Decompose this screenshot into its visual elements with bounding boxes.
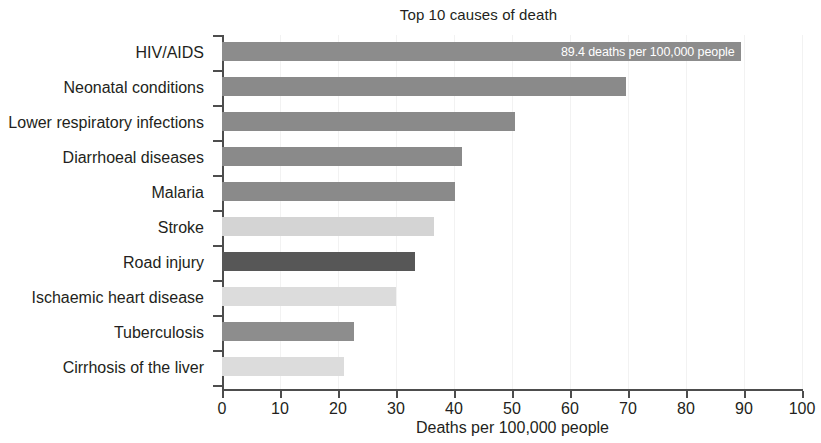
y-axis-label: Lower respiratory infections [0, 105, 213, 140]
gridline [802, 35, 803, 390]
x-axis-tick-label: 70 [619, 400, 637, 418]
y-axis-label: Cirrhosis of the liver [0, 350, 213, 385]
x-axis-tick-label: 50 [503, 400, 521, 418]
x-axis-tick [744, 391, 746, 398]
bar [222, 217, 434, 236]
bar-row [222, 140, 802, 175]
bar-row [222, 105, 802, 140]
y-axis-label: Road injury [0, 245, 213, 280]
y-axis-tick [213, 210, 222, 212]
x-axis-tick [280, 391, 282, 398]
bar [222, 112, 515, 131]
x-axis-title: Deaths per 100,000 people [222, 419, 803, 437]
x-axis-tick [570, 391, 572, 398]
bar-row: 89.4 deaths per 100,000 people [222, 35, 802, 70]
x-axis-tick-label: 80 [677, 400, 695, 418]
y-axis-tick [213, 385, 222, 387]
bar-row [222, 350, 802, 385]
y-axis-tick [213, 175, 222, 177]
bar-row [222, 315, 802, 350]
x-axis-tick-label: 20 [329, 400, 347, 418]
bar [222, 147, 462, 166]
bar-row [222, 70, 802, 105]
x-axis-tick [686, 391, 688, 398]
y-axis-tick [213, 140, 222, 142]
bar-value-label: 89.4 deaths per 100,000 people [561, 45, 735, 59]
x-axis-tick-label: 40 [445, 400, 463, 418]
y-axis-label: Neonatal conditions [0, 70, 213, 105]
bar [222, 322, 354, 341]
x-axis-tick [338, 391, 340, 398]
y-axis-tick [213, 245, 222, 247]
y-axis-label: Stroke [0, 210, 213, 245]
x-axis-tick-label: 100 [789, 400, 816, 418]
bar [222, 182, 455, 201]
x-axis-tick-label: 0 [218, 400, 227, 418]
y-axis-tick [213, 350, 222, 352]
x-axis-tick [454, 391, 456, 398]
y-axis-label: Ischaemic heart disease [0, 280, 213, 315]
y-axis-tick [213, 280, 222, 282]
y-axis-label: Diarrhoeal diseases [0, 140, 213, 175]
bar [222, 357, 344, 376]
x-axis-tick-label: 30 [387, 400, 405, 418]
bar [222, 287, 396, 306]
y-axis-category-labels: HIV/AIDSNeonatal conditionsLower respira… [0, 35, 213, 390]
x-axis-tick [222, 391, 224, 398]
y-axis-tick [213, 35, 222, 37]
plot-area: 89.4 deaths per 100,000 people [222, 35, 802, 390]
chart-title-text: Top 10 causes of death [400, 6, 557, 23]
bar-row [222, 175, 802, 210]
bar: 89.4 deaths per 100,000 people [222, 42, 741, 61]
x-axis-tick-label: 90 [735, 400, 753, 418]
y-axis-tick [213, 315, 222, 317]
x-axis-tick [396, 391, 398, 398]
y-axis-tick [213, 105, 222, 107]
bar [222, 77, 626, 96]
x-axis-ticks: 0102030405060708090100 [222, 391, 803, 421]
bar-chart: Top 10 causes of death HIV/AIDSNeonatal … [0, 0, 821, 443]
y-axis-label: HIV/AIDS [0, 35, 213, 70]
chart-title: Top 10 causes of death [0, 6, 821, 23]
bar [222, 252, 415, 271]
bar-row [222, 245, 802, 280]
y-axis-label: Malaria [0, 175, 213, 210]
y-axis-label: Tuberculosis [0, 315, 213, 350]
y-axis-tick [213, 70, 222, 72]
bar-row [222, 280, 802, 315]
x-axis-tick [512, 391, 514, 398]
x-axis-tick-label: 60 [561, 400, 579, 418]
bar-row [222, 210, 802, 245]
x-axis-tick [628, 391, 630, 398]
x-axis-tick [802, 391, 804, 398]
x-axis-tick-label: 10 [271, 400, 289, 418]
